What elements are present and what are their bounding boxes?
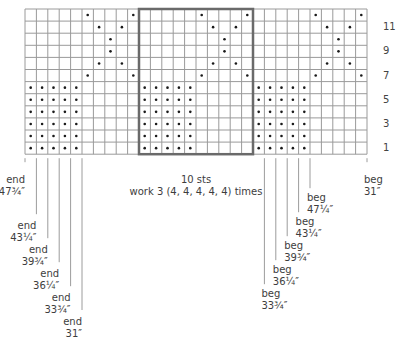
stitch-dot: [75, 147, 78, 150]
beg-size: 31″: [364, 186, 380, 197]
row-number: 5: [383, 94, 389, 105]
stitch-dot: [41, 147, 44, 150]
row-number: 11: [383, 21, 396, 32]
stitch-dot: [41, 123, 44, 126]
stitch-dot: [303, 98, 306, 101]
stitch-dot: [166, 123, 169, 126]
stitch-dot: [200, 14, 203, 17]
stitch-dot: [200, 74, 203, 77]
stitch-dot: [269, 98, 272, 101]
stitch-dot: [257, 86, 260, 89]
stitch-dot: [121, 26, 124, 29]
stitch-dot: [292, 147, 295, 150]
stitch-dot: [235, 62, 238, 65]
stitch-dot: [143, 123, 146, 126]
stitch-dot: [155, 86, 158, 89]
stitch-dot: [337, 50, 340, 53]
stitch-dot: [280, 111, 283, 114]
stitch-dot: [86, 74, 89, 77]
stitch-dot: [29, 123, 32, 126]
stitch-dot: [257, 123, 260, 126]
stitch-dot: [75, 135, 78, 138]
stitch-dot: [257, 147, 260, 150]
stitch-dot: [280, 123, 283, 126]
stitch-dot: [212, 62, 215, 65]
stitch-dot: [52, 147, 55, 150]
repeat-instruction: work 3 (4, 4, 4, 4, 4) times: [116, 186, 276, 198]
stitch-dot: [143, 135, 146, 138]
stitch-dot: [29, 111, 32, 114]
stitch-dot: [155, 98, 158, 101]
stitch-dot: [29, 135, 32, 138]
stitch-dot: [132, 74, 135, 77]
stitch-dot: [29, 98, 32, 101]
stitch-dot: [269, 147, 272, 150]
end-label: end: [25, 268, 59, 279]
stitch-dot: [189, 98, 192, 101]
stitch-dot: [212, 26, 215, 29]
stitch-dot: [292, 135, 295, 138]
stitch-dot: [41, 98, 44, 101]
stitch-dot: [314, 14, 317, 17]
stitch-dot: [64, 147, 67, 150]
stitch-dot: [178, 123, 181, 126]
end-label: end: [2, 220, 36, 231]
stitch-dot: [109, 38, 112, 41]
stitch-dot: [303, 135, 306, 138]
stitch-dot: [246, 74, 249, 77]
stitch-dot: [166, 86, 169, 89]
stitch-dot: [189, 86, 192, 89]
stitch-dot: [223, 50, 226, 53]
stitch-dot: [189, 147, 192, 150]
stitch-dot: [52, 98, 55, 101]
stitch-dot: [41, 135, 44, 138]
stitch-dot: [292, 123, 295, 126]
stitch-dot: [178, 135, 181, 138]
stitch-dot: [337, 38, 340, 41]
end-size: 33¾″: [31, 304, 71, 315]
end-size: 39¾″: [8, 256, 48, 267]
stitch-dot: [166, 147, 169, 150]
row-number: 1: [383, 142, 389, 153]
stitch-dot: [246, 14, 249, 17]
stitch-dot: [314, 74, 317, 77]
stitch-dot: [132, 14, 135, 17]
beg-label: beg: [284, 240, 303, 251]
stitch-dot: [64, 86, 67, 89]
stitch-dot: [257, 98, 260, 101]
stitch-dot: [269, 123, 272, 126]
beg-label: beg: [261, 288, 280, 299]
end-label: end: [14, 244, 48, 255]
stitch-dot: [64, 135, 67, 138]
stitch-dot: [166, 98, 169, 101]
end-size: 36¼″: [19, 280, 59, 291]
beg-size: 43¼″: [296, 228, 322, 239]
stitch-dot: [326, 26, 329, 29]
stitch-dot: [64, 98, 67, 101]
stitch-dot: [143, 86, 146, 89]
stitch-dot: [64, 111, 67, 114]
stitch-dot: [75, 98, 78, 101]
stitch-dot: [280, 135, 283, 138]
stitch-dot: [29, 86, 32, 89]
repeat-stitch-count: 10 sts: [116, 174, 276, 186]
stitch-dot: [189, 123, 192, 126]
stitch-dot: [166, 135, 169, 138]
stitch-dot: [155, 147, 158, 150]
stitch-dot: [257, 111, 260, 114]
stitch-dot: [98, 26, 101, 29]
row-number: 7: [383, 70, 389, 81]
stitch-dot: [223, 38, 226, 41]
stitch-dot: [75, 86, 78, 89]
stitch-dot: [280, 147, 283, 150]
stitch-dot: [303, 111, 306, 114]
stitch-dot: [349, 62, 352, 65]
stitch-dot: [64, 123, 67, 126]
row-number: 9: [383, 45, 389, 56]
stitch-dot: [303, 147, 306, 150]
stitch-dot: [98, 62, 101, 65]
stitch-dot: [86, 14, 89, 17]
stitch-dot: [360, 74, 363, 77]
stitch-dot: [292, 86, 295, 89]
